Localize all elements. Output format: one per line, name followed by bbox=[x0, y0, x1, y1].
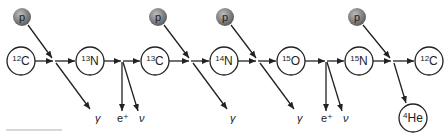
proton-label: p bbox=[222, 11, 228, 23]
gamma-label: γ bbox=[95, 112, 102, 124]
gamma-label: γ bbox=[230, 112, 237, 124]
positron-label: e⁺ bbox=[321, 112, 333, 124]
cno-cycle-diagram: p p p p 12C 13N 13C bbox=[0, 0, 448, 136]
proton-label: p bbox=[155, 11, 161, 23]
gamma-label: γ bbox=[297, 112, 304, 124]
emission-labels: γ e⁺ ν γ γ e⁺ ν bbox=[95, 112, 349, 124]
proton-label: p bbox=[19, 11, 25, 23]
neutrino-label: ν bbox=[139, 112, 145, 124]
neutrino-label: ν bbox=[343, 112, 349, 124]
proton-1: p bbox=[149, 8, 167, 26]
proton-0: p bbox=[13, 8, 31, 26]
decorative-bar bbox=[6, 129, 62, 131]
proton-2: p bbox=[216, 8, 234, 26]
proton-3: p bbox=[348, 8, 366, 26]
positron-label: e⁺ bbox=[117, 112, 129, 124]
proton-label: p bbox=[354, 11, 360, 23]
